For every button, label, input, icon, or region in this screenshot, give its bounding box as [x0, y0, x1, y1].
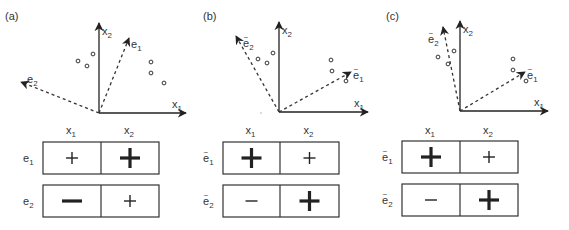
panel-c: (c)x1x2e1~e2~x1x2e1~e2~	[382, 10, 548, 216]
basis-vector-label-e2: e2	[27, 73, 38, 88]
column-header-x1: x1	[425, 124, 436, 139]
basis-vector-e1	[99, 38, 129, 113]
basis-vector-label-e2-tilde: ~	[429, 29, 434, 38]
x2-axis-label: x2	[282, 24, 292, 39]
column-header-x2: x2	[483, 124, 493, 139]
row-label-e1: e1	[23, 152, 34, 167]
table-cell-sign-plus-large	[421, 147, 441, 167]
table-row-e2: e2	[23, 185, 159, 217]
column-header-x2: x2	[304, 124, 314, 139]
panel-a: (a)x1x2e1e2x1x2e1e2	[5, 10, 186, 217]
table-cell-sign-plus-large	[479, 190, 499, 210]
basis-vector-label-e2-tilde: ~	[244, 33, 249, 42]
table-row-e1: e1	[23, 142, 159, 174]
basis-vector-label-e1-tilde: ~	[528, 65, 533, 74]
table-row-e1: e1~	[203, 142, 339, 174]
data-point	[511, 57, 515, 61]
table-row-e2: e2~	[203, 185, 339, 217]
data-point	[452, 49, 456, 53]
data-point	[162, 81, 166, 85]
column-header-x1: x1	[246, 124, 257, 139]
panel-label: (b)	[203, 10, 216, 22]
x1-axis-label: x1	[354, 97, 365, 112]
loading-table: x1x2e1~e2~	[203, 124, 339, 217]
data-point	[330, 69, 334, 73]
data-point	[511, 68, 515, 72]
data-point	[76, 59, 80, 63]
table-row-box	[223, 142, 339, 174]
row-label-e2-tilde: ~	[383, 190, 388, 199]
basis-vector-e1	[279, 72, 351, 112]
panel-label: (c)	[386, 10, 399, 22]
basis-vector-e1	[460, 72, 525, 111]
panel-b: (b)x1x2e1~e2~x1x2e1~e2~	[203, 10, 368, 217]
row-label-e1-tilde: ~	[383, 147, 388, 156]
panel-label: (a)	[5, 10, 18, 22]
x1-axis-label: x1	[172, 98, 183, 113]
table-cell-sign-plus-large	[300, 191, 320, 211]
basis-vector-label-e1: e1	[131, 38, 142, 53]
table-cell-sign-plus-small	[304, 152, 316, 164]
table-cell-sign-plus-small	[124, 195, 136, 207]
x2-axis-label: x2	[463, 23, 473, 38]
data-point	[85, 64, 89, 68]
data-point	[344, 79, 348, 83]
column-header-x2: x2	[124, 124, 134, 139]
data-point	[524, 79, 528, 83]
data-point	[446, 62, 450, 66]
pca-diagram: (a)x1x2e1e2x1x2e1e2(b)x1x2e1~e2~x1x2e1~e…	[0, 0, 569, 230]
x2-axis-label: x2	[102, 25, 112, 40]
loading-table: x1x2e1e2	[23, 124, 159, 217]
data-point	[149, 71, 153, 75]
table-cell-sign-plus-small	[483, 151, 495, 163]
loading-table: x1x2e1~e2~	[382, 124, 518, 216]
data-point	[436, 55, 440, 59]
table-cell-sign-plus-large	[120, 148, 140, 168]
column-header-x1: x1	[66, 124, 77, 139]
row-label-e1-tilde: ~	[204, 148, 209, 157]
table-row-e1: e1~	[382, 141, 518, 173]
data-point	[91, 52, 95, 56]
table-row-box	[223, 185, 339, 217]
table-cell-sign-plus-large	[242, 148, 262, 168]
data-point	[149, 60, 153, 64]
x1-axis-label: x1	[534, 96, 545, 111]
data-point	[329, 58, 333, 62]
data-point	[265, 61, 269, 65]
data-point	[256, 57, 260, 61]
table-row-e2: e2~	[382, 184, 518, 216]
basis-vector-label-e1-tilde: ~	[354, 65, 359, 74]
row-label-e2-tilde: ~	[204, 191, 209, 200]
table-cell-sign-plus-small	[66, 152, 78, 164]
row-label-e2: e2	[23, 195, 34, 210]
stray-dot	[260, 112, 262, 114]
basis-vector-e2	[443, 27, 460, 111]
data-point	[271, 51, 275, 55]
